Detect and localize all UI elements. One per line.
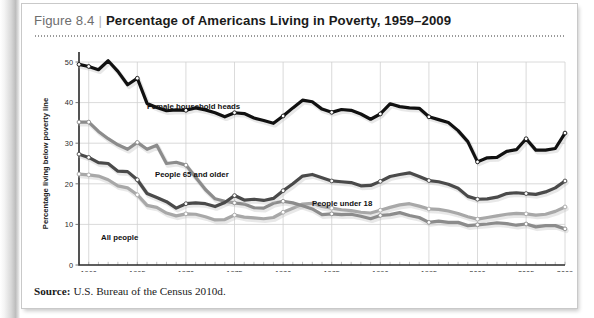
- caption-divider: [34, 35, 566, 37]
- data-point-marker: [476, 160, 480, 164]
- page-root: Figure 8.4|Percentage of Americans Livin…: [0, 0, 594, 318]
- data-point-marker: [378, 214, 382, 218]
- chart-area: 0102030405019601965197019751980198519901…: [22, 40, 579, 272]
- data-point-marker: [87, 156, 91, 160]
- x-tick-label-1975: 1975: [226, 269, 242, 272]
- data-point-marker: [378, 208, 382, 212]
- y-tick-label-10: 10: [65, 220, 73, 229]
- source-text: U.S. Bureau of the Census 2010d.: [70, 285, 225, 297]
- x-tick-label-1995: 1995: [421, 269, 437, 272]
- data-point-marker: [135, 140, 139, 144]
- data-point-marker: [281, 199, 285, 203]
- data-point-marker: [524, 192, 528, 196]
- data-point-marker: [330, 110, 334, 114]
- source-label: Source:: [34, 285, 70, 297]
- x-tick-label-2009: 2009: [557, 269, 573, 272]
- data-point-marker: [77, 120, 81, 124]
- page-title: Percentage of Americans Living in Povert…: [106, 13, 451, 28]
- y-tick-label-20: 20: [65, 180, 73, 189]
- x-tick-label-1990: 1990: [372, 269, 388, 272]
- data-point-marker: [330, 212, 334, 216]
- data-point-marker: [281, 114, 285, 118]
- x-tick-label-2005: 2005: [518, 269, 534, 272]
- y-tick-label-50: 50: [65, 58, 73, 67]
- data-point-marker: [87, 120, 91, 124]
- y-axis-title: Percentage living below poverty line: [41, 98, 50, 229]
- figure-panel: Figure 8.4|Percentage of Americans Livin…: [21, 3, 578, 309]
- data-point-marker: [184, 202, 188, 206]
- y-tick-label-30: 30: [65, 139, 73, 148]
- series-line-people-65-and-older: [79, 122, 565, 229]
- data-point-marker: [233, 213, 237, 217]
- data-point-marker: [427, 220, 431, 224]
- data-point-marker: [476, 197, 480, 201]
- data-point-marker: [77, 152, 81, 156]
- data-point-marker: [563, 179, 567, 183]
- data-point-marker: [378, 179, 382, 183]
- data-point-marker: [427, 115, 431, 119]
- data-point-marker: [184, 212, 188, 216]
- data-point-marker: [427, 207, 431, 211]
- data-point-marker: [524, 222, 528, 226]
- data-point-marker: [563, 205, 567, 209]
- data-point-marker: [330, 179, 334, 183]
- data-point-marker: [476, 223, 480, 227]
- series-label-female-household-heads: Female household heads: [147, 102, 241, 111]
- data-point-marker: [563, 227, 567, 231]
- caption-separator: |: [94, 13, 106, 28]
- data-point-marker: [476, 217, 480, 221]
- x-tick-label-1970: 1970: [178, 269, 194, 272]
- data-point-marker: [135, 76, 139, 80]
- x-tick-label-1960: 1960: [80, 269, 96, 272]
- series-label-all-people: All people: [101, 233, 139, 242]
- figure-caption: Figure 8.4|Percentage of Americans Livin…: [34, 13, 451, 28]
- data-point-marker: [184, 163, 188, 167]
- data-point-marker: [233, 194, 237, 198]
- data-point-marker: [524, 212, 528, 216]
- data-point-marker: [135, 178, 139, 182]
- data-point-marker: [427, 179, 431, 183]
- data-point-marker: [524, 137, 528, 141]
- data-point-marker: [135, 193, 139, 197]
- data-point-marker: [233, 111, 237, 115]
- x-tick-label-2000: 2000: [469, 269, 485, 272]
- data-point-marker: [77, 172, 81, 176]
- y-tick-label-0: 0: [69, 261, 73, 270]
- data-point-marker: [378, 112, 382, 116]
- series-label-people-65-and-older: People 65 and older: [155, 170, 229, 179]
- data-point-marker: [87, 65, 91, 69]
- data-point-marker: [563, 131, 567, 135]
- data-point-marker: [281, 189, 285, 193]
- x-tick-label-1985: 1985: [323, 269, 339, 272]
- data-point-marker: [77, 63, 81, 67]
- poverty-line-chart: 0102030405019601965197019751980198519901…: [22, 40, 579, 272]
- x-tick-label-1980: 1980: [275, 269, 291, 272]
- data-point-marker: [281, 210, 285, 214]
- figure-number: Figure 8.4: [34, 13, 94, 28]
- series-label-people-under-18: People under 18: [312, 199, 373, 208]
- x-tick-label-1965: 1965: [129, 269, 145, 272]
- source-note: Source:U.S. Bureau of the Census 2010d.: [34, 285, 226, 297]
- data-point-marker: [87, 173, 91, 177]
- page-gutter-shadow: [0, 0, 20, 318]
- y-tick-label-40: 40: [65, 98, 73, 107]
